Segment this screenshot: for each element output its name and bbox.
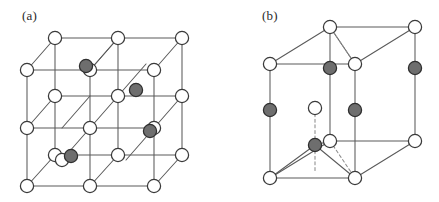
lattice-edge [270, 145, 315, 178]
lattice-edge [270, 27, 330, 64]
atom-open [348, 171, 361, 184]
atom-open [348, 57, 361, 70]
atom-open [323, 134, 336, 147]
atom-open [323, 20, 336, 33]
atom-filled [408, 61, 421, 74]
atom-open [408, 134, 421, 147]
crystal-structure-hexagonal-diagram [0, 0, 439, 202]
atom-open [308, 101, 321, 114]
atom-filled [263, 103, 276, 116]
atom-filled [308, 138, 321, 151]
lattice-edge [355, 141, 415, 178]
lattice-edge [315, 145, 355, 178]
atom-open [263, 57, 276, 70]
figure-root: (a) (b) [0, 0, 439, 202]
atom-filled [323, 61, 336, 74]
atom-open [408, 20, 421, 33]
atom-filled [348, 103, 361, 116]
lattice-edge [355, 27, 415, 64]
atom-open [263, 171, 276, 184]
